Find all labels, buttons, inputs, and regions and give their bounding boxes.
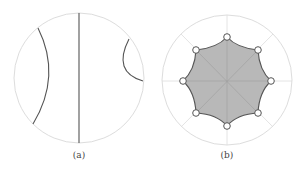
vertex-marker-icon: [268, 78, 275, 85]
panel-a: [14, 13, 144, 143]
vertex-marker-icon: [224, 34, 231, 41]
geodesic-arc-right: [123, 39, 143, 81]
vertex-marker-icon: [180, 78, 187, 85]
caption-b: (b): [207, 150, 247, 160]
geodesic-arc-left: [33, 28, 49, 124]
vertex-marker-icon: [224, 123, 231, 130]
vertex-marker-icon: [193, 110, 200, 117]
caption-a: (a): [59, 150, 99, 160]
vertex-marker-icon: [193, 47, 200, 54]
panel-b: [162, 15, 292, 145]
vertex-marker-icon: [255, 110, 262, 117]
figure-canvas: [0, 0, 307, 174]
vertex-marker-icon: [255, 47, 262, 54]
